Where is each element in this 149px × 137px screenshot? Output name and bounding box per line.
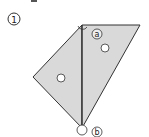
figure-diagram: 1 a b [0, 0, 149, 137]
left-dot [57, 74, 65, 82]
angle-label-b: b [92, 127, 102, 137]
step-number-badge: 1 [8, 13, 20, 25]
step-number-text: 1 [11, 15, 17, 25]
angle-arc-b [77, 125, 87, 135]
angle-label-a: a [92, 29, 102, 39]
right-dot [101, 44, 109, 52]
right-triangle [82, 25, 140, 128]
angle-label-b-text: b [94, 128, 99, 137]
cropped-text-fragment [31, 0, 37, 2]
angle-label-a-text: a [95, 30, 100, 39]
